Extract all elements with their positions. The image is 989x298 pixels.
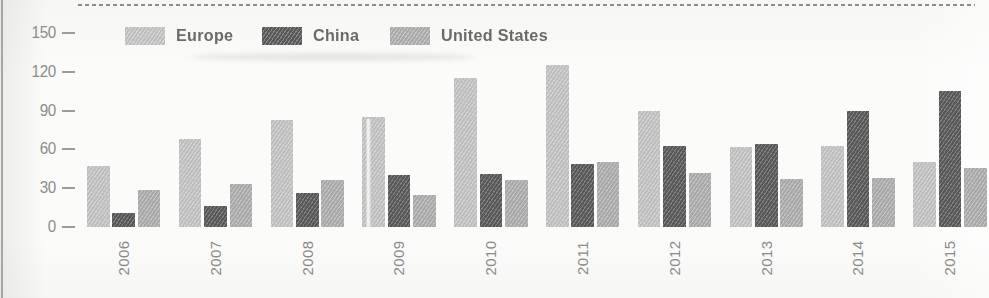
x-tick-label-2010: 2010	[482, 241, 499, 276]
x-tick-label-2014: 2014	[849, 241, 866, 276]
x-tick-label-2015: 2015	[941, 241, 958, 276]
bar-europe-2007	[179, 139, 202, 227]
bar-europe-2006	[87, 166, 110, 227]
bar-china-2013	[755, 144, 778, 227]
y-tick-label: 90	[16, 102, 56, 120]
bar-united-states-2014	[872, 178, 895, 227]
bar-china-2010	[480, 174, 503, 227]
bar-europe-2010	[454, 78, 477, 227]
legend-swatch	[262, 27, 302, 45]
y-tick-label: 0	[16, 218, 56, 236]
bar-china-2011	[571, 164, 594, 227]
bar-china-2015	[939, 91, 962, 227]
bar-united-states-2008	[321, 180, 344, 227]
x-tick-label-2013: 2013	[757, 241, 774, 276]
legend-label: Europe	[176, 26, 233, 46]
bar-europe-2011	[546, 65, 569, 227]
legend-item-china: China	[262, 27, 362, 45]
legend-item-europe: Europe	[125, 27, 236, 45]
bar-china-2008	[296, 193, 319, 227]
bar-united-states-2009	[413, 195, 436, 227]
legend-label: China	[313, 26, 359, 46]
bar-china-2012	[663, 146, 686, 227]
y-tick-label: 150	[16, 24, 56, 42]
x-tick-label-2012: 2012	[665, 241, 682, 276]
x-tick-label-2007: 2007	[206, 241, 223, 276]
legend-swatch	[125, 27, 165, 45]
y-tick-mark	[62, 187, 75, 189]
y-tick-label: 30	[16, 179, 56, 197]
bar-united-states-2015	[964, 168, 987, 227]
legend-swatch	[390, 27, 430, 45]
y-tick-mark	[62, 32, 75, 34]
bar-europe-2013	[730, 147, 753, 227]
bar-china-2007	[204, 206, 227, 227]
bar-china-2006	[112, 213, 135, 227]
bar-china-2009	[388, 175, 411, 227]
x-tick-label-2006: 2006	[115, 241, 132, 276]
bar-europe-2008	[271, 120, 294, 227]
bar-united-states-2012	[689, 173, 712, 227]
bar-united-states-2011	[597, 162, 620, 227]
x-tick-label-2008: 2008	[298, 241, 315, 276]
bar-europe-2015	[913, 162, 936, 227]
bar-united-states-2007	[230, 184, 253, 227]
y-tick-label: 60	[16, 140, 56, 158]
x-tick-label-2009: 2009	[390, 241, 407, 276]
y-tick-label: 120	[16, 63, 56, 81]
top-dashed-rule	[78, 4, 975, 6]
y-tick-mark	[62, 110, 75, 112]
y-tick-mark	[62, 226, 75, 228]
bar-europe-2014	[821, 146, 844, 227]
glare-artifact	[366, 119, 371, 227]
bar-united-states-2010	[505, 180, 528, 227]
bar-europe-2012	[638, 111, 661, 227]
bar-china-2014	[847, 111, 870, 227]
legend-item-united-states: United States	[390, 27, 554, 45]
page-edge-line	[1, 0, 3, 298]
scanned-bar-chart-page: EuropeChinaUnited States 1501209060300 2…	[0, 0, 989, 298]
y-tick-mark	[62, 148, 75, 150]
bar-united-states-2013	[780, 179, 803, 227]
bar-united-states-2006	[138, 190, 161, 228]
legend-label: United States	[441, 26, 548, 46]
x-tick-label-2011: 2011	[574, 241, 591, 275]
print-showthrough-smudge	[190, 53, 475, 61]
y-tick-mark	[62, 71, 75, 73]
